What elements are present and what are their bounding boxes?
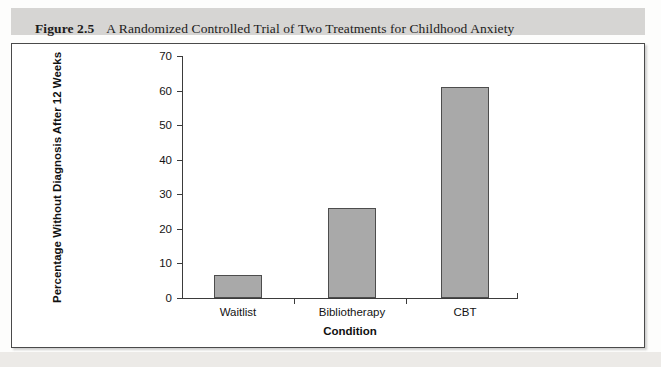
x-axis-title: Condition bbox=[182, 325, 518, 337]
y-tick-label-10: 10 bbox=[138, 258, 172, 268]
x-tick-2 bbox=[406, 298, 407, 304]
y-tick-label-70: 70 bbox=[138, 51, 172, 61]
y-tick-70 bbox=[177, 56, 183, 57]
figure-frame: 0 10 20 30 40 50 60 70 Waitlist bbox=[11, 43, 645, 348]
y-axis-title: Percentage Without Diagnosis After 12 We… bbox=[51, 53, 63, 303]
y-tick-label-40: 40 bbox=[138, 155, 172, 165]
y-tick-20 bbox=[177, 229, 183, 230]
x-tick-1 bbox=[294, 298, 295, 304]
y-tick-10 bbox=[177, 263, 183, 264]
figure-number: Figure 2.5 bbox=[35, 21, 94, 36]
figure-page: Figure 2.5A Randomized Controlled Trial … bbox=[0, 0, 661, 367]
figure-caption: Figure 2.5A Randomized Controlled Trial … bbox=[35, 21, 514, 37]
bar-bibliotherapy bbox=[328, 208, 376, 298]
y-tick-60 bbox=[177, 91, 183, 92]
y-tick-30 bbox=[177, 194, 183, 195]
bar-waitlist bbox=[214, 275, 262, 298]
x-axis-line bbox=[182, 298, 518, 299]
y-tick-40 bbox=[177, 160, 183, 161]
bar-cbt bbox=[441, 87, 489, 298]
y-tick-label-60: 60 bbox=[138, 86, 172, 96]
y-tick-label-50: 50 bbox=[138, 120, 172, 130]
x-axis-end-tick bbox=[517, 293, 518, 299]
y-tick-label-30: 30 bbox=[138, 189, 172, 199]
y-tick-50 bbox=[177, 125, 183, 126]
figure-title: A Randomized Controlled Trial of Two Tre… bbox=[94, 21, 514, 36]
x-category-label-cbt: CBT bbox=[415, 306, 515, 318]
y-tick-label-0: 0 bbox=[138, 293, 172, 303]
bar-chart-plot: 0 10 20 30 40 50 60 70 Waitlist bbox=[12, 44, 646, 349]
y-tick-label-20: 20 bbox=[138, 224, 172, 234]
x-category-label-waitlist: Waitlist bbox=[188, 306, 288, 318]
x-category-label-bibliotherapy: Bibliotherapy bbox=[302, 306, 402, 318]
figure-caption-band: Figure 2.5A Randomized Controlled Trial … bbox=[11, 8, 645, 35]
page-bottom-margin bbox=[0, 352, 661, 367]
y-tick-0 bbox=[177, 298, 183, 299]
